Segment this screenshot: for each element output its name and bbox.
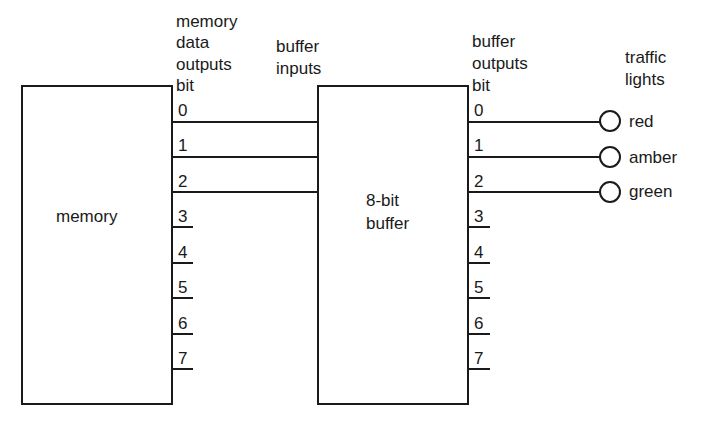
memory-bit-5-label: 5 <box>178 278 187 297</box>
buffer-inputs-header-line-1: buffer <box>276 37 320 56</box>
lamp-circle-icon <box>600 111 620 131</box>
memory-outputs-header: memory data outputs bit <box>176 12 238 95</box>
buffer-label-line-2: buffer <box>366 214 410 233</box>
traffic-light-amber: amber <box>600 147 678 167</box>
lamp-circle-icon <box>600 182 620 202</box>
memory-bit-6-label: 6 <box>178 314 187 333</box>
lamp-amber-label: amber <box>629 148 678 167</box>
buffer-inputs-header: buffer inputs <box>276 37 321 78</box>
buffer-bit-1-label: 1 <box>474 136 483 155</box>
memory-bit-labels: 0 1 2 3 4 5 6 7 <box>178 101 187 368</box>
buffer-bit-6-label: 6 <box>474 314 483 333</box>
buffer-outputs-header-line-2: outputs <box>472 54 528 73</box>
traffic-light-green: green <box>600 182 672 202</box>
lamp-circle-icon <box>600 147 620 167</box>
buffer-to-lights-wires <box>468 122 600 192</box>
buffer-bit-5-label: 5 <box>474 278 483 297</box>
memory-buffer-traffic-lights-diagram: memory memory data outputs bit buffer in… <box>0 0 710 430</box>
memory-bit-1-label: 1 <box>178 136 187 155</box>
memory-bit-7-label: 7 <box>178 349 187 368</box>
memory-to-buffer-wires <box>172 122 318 192</box>
memory-bit-0-label: 0 <box>178 101 187 120</box>
traffic-light-red: red <box>600 111 654 131</box>
buffer-box <box>318 86 468 404</box>
buffer-bit-0-label: 0 <box>474 101 483 120</box>
buffer-bit-7-label: 7 <box>474 349 483 368</box>
memory-box <box>22 86 172 404</box>
buffer-label-line-1: 8-bit <box>366 191 399 210</box>
traffic-lights-header: traffic lights <box>625 48 667 89</box>
buffer-bit-3-label: 3 <box>474 207 483 226</box>
memory-header-line-2: data <box>176 33 210 52</box>
buffer-bit-4-label: 4 <box>474 243 483 262</box>
memory-header-line-4: bit <box>176 76 194 95</box>
memory-bit-4-label: 4 <box>178 243 187 262</box>
memory-bit-2-label: 2 <box>178 172 187 191</box>
memory-header-line-1: memory <box>176 12 238 31</box>
traffic-lights-header-line-2: lights <box>625 70 665 89</box>
buffer-block: 8-bit buffer <box>318 86 468 404</box>
traffic-lights-header-line-1: traffic <box>625 48 667 67</box>
buffer-outputs-header-line-1: buffer <box>472 32 516 51</box>
buffer-outputs-header: buffer outputs bit <box>472 32 528 95</box>
memory-block: memory <box>22 86 172 404</box>
buffer-inputs-header-line-2: inputs <box>276 59 321 78</box>
buffer-bit-labels: 0 1 2 3 4 5 6 7 <box>474 101 483 368</box>
buffer-bit-2-label: 2 <box>474 172 483 191</box>
lamp-red-label: red <box>629 112 654 131</box>
buffer-outputs-header-line-3: bit <box>472 76 490 95</box>
memory-label: memory <box>56 207 118 226</box>
memory-header-line-3: outputs <box>176 55 232 74</box>
lamp-green-label: green <box>629 182 672 201</box>
memory-bit-3-label: 3 <box>178 207 187 226</box>
